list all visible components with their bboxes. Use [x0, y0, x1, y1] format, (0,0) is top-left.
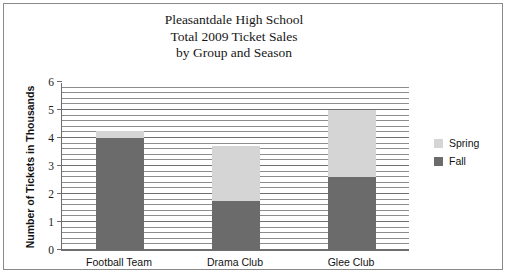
y-axis-tick-label: 1 — [48, 216, 54, 228]
y-axis-tick — [57, 221, 62, 222]
plot-area: 0123456 — [61, 83, 409, 251]
y-axis-tick — [57, 193, 62, 194]
y-axis-tick-label: 6 — [48, 76, 54, 88]
bar-segment-fall — [212, 201, 260, 250]
y-axis-tick-label: 3 — [48, 160, 54, 172]
bar-segment-spring — [328, 110, 376, 177]
chart-title-line-3: by Group and Season — [99, 45, 369, 62]
bar-segment-spring — [96, 131, 144, 138]
legend-label: Spring — [449, 137, 479, 149]
x-axis-label: Football Team — [86, 256, 152, 268]
x-axis-label: Glee Club — [328, 256, 375, 268]
legend-item: Spring — [434, 137, 479, 149]
chart-title-line-2: Total 2009 Ticket Sales — [99, 29, 369, 46]
y-axis-tick — [57, 81, 62, 82]
legend-label: Fall — [449, 155, 466, 167]
chart-title: Pleasantdale High School Total 2009 Tick… — [99, 12, 369, 62]
y-axis-tick — [57, 165, 62, 166]
bar-segment-fall — [96, 138, 144, 250]
x-axis-label: Drama Club — [207, 256, 263, 268]
y-axis-title: Number of Tickets in Thousands — [22, 83, 38, 251]
bar-stack — [328, 82, 376, 250]
chart-title-line-1: Pleasantdale High School — [99, 12, 369, 29]
y-axis-tick-label: 4 — [48, 132, 54, 144]
chart-legend: SpringFall — [434, 137, 479, 173]
y-axis-tick — [57, 249, 62, 250]
bar-stack — [96, 82, 144, 250]
y-axis-tick — [57, 137, 62, 138]
bar-segment-spring — [212, 146, 260, 201]
y-axis-tick-label: 2 — [48, 188, 54, 200]
bar-segment-fall — [328, 177, 376, 250]
y-axis-tick-label: 0 — [48, 244, 54, 256]
y-axis-tick — [57, 109, 62, 110]
bar-stack — [212, 82, 260, 250]
y-axis-tick-label: 5 — [48, 104, 54, 116]
y-axis-title-label: Number of Tickets in Thousands — [24, 86, 36, 249]
legend-swatch-fall — [434, 157, 443, 166]
legend-item: Fall — [434, 155, 479, 167]
legend-swatch-spring — [434, 139, 443, 148]
chart-frame: Pleasantdale High School Total 2009 Tick… — [3, 3, 503, 270]
